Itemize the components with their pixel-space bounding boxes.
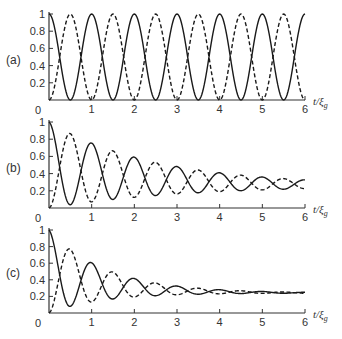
x-tick-label: 1 [89,103,95,115]
y-tick-label: 0.4 [30,274,45,286]
y-tick-label: 1 [39,224,45,236]
x-axis-label: t/ξg [313,95,328,110]
x-tick-label: 2 [131,103,137,115]
panel-label: (a) [6,53,21,67]
y-tick-label: 0 [35,212,41,224]
solid-curve [49,122,305,205]
panel-b: 12345600.20.40.60.81(b)t/ξg [6,116,328,224]
x-tick-label: 4 [217,103,223,115]
y-tick-label: 0.8 [30,133,45,145]
x-tick-label: 5 [259,103,265,115]
x-tick-label: 2 [131,211,137,223]
panel-label: (b) [6,161,21,175]
y-tick-label: 0.6 [30,42,45,54]
figure-three-panel-chart: 12345600.20.40.60.81(a)t/ξg 12345600.20.… [0,0,342,339]
y-tick-label: 0 [35,317,41,329]
x-tick-label: 3 [174,211,180,223]
y-tick-label: 1 [39,8,45,20]
panel-a: 12345600.20.40.60.81(a)t/ξg [6,8,328,116]
x-tick-label: 5 [259,316,265,328]
solid-curve [49,230,305,306]
solid-curve [49,14,305,100]
y-tick-label: 0.6 [30,150,45,162]
x-tick-label: 6 [302,316,308,328]
x-tick-label: 4 [217,211,223,223]
y-tick-label: 1 [39,116,45,128]
y-tick-label: 0 [35,104,41,116]
x-tick-label: 2 [131,316,137,328]
y-tick-label: 0.4 [30,168,45,180]
x-tick-label: 4 [217,316,223,328]
dashed-curve [49,14,305,100]
y-tick-label: 0.2 [30,290,45,302]
x-tick-label: 6 [302,103,308,115]
x-tick-label: 5 [259,211,265,223]
x-axis-label: t/ξg [313,203,328,218]
x-tick-label: 3 [174,103,180,115]
y-tick-label: 0.8 [30,241,45,253]
x-tick-label: 1 [89,316,95,328]
x-tick-label: 1 [89,211,95,223]
y-tick-label: 0.6 [30,257,45,269]
y-tick-label: 0.8 [30,25,45,37]
x-axis-label: t/ξg [313,308,328,323]
y-tick-label: 0.2 [30,77,45,89]
x-tick-label: 3 [174,316,180,328]
dashed-curve [49,249,305,313]
x-tick-label: 6 [302,211,308,223]
panel-label: (c) [6,266,20,280]
y-tick-label: 0.2 [30,185,45,197]
dashed-curve [49,133,305,208]
panel-c: 12345600.20.40.60.81(c)t/ξg [6,224,328,329]
y-tick-label: 0.4 [30,60,45,72]
